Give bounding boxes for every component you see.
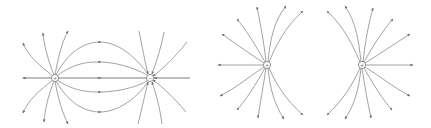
field-line-connect-upper-2: [56, 42, 100, 75]
positive-charge: +: [51, 74, 58, 81]
field-line-down-5: [269, 68, 303, 115]
field-line-up-1: [222, 34, 264, 63]
field-line-down-4: [268, 68, 284, 119]
positive-charge: +: [263, 61, 270, 68]
field-line-down-3: [362, 68, 371, 118]
field-line-negative-in-down-2: [152, 82, 162, 124]
field-line-up-3: [363, 8, 373, 62]
field-line-down-2: [237, 68, 265, 110]
field-line-connect-lower-1: [57, 80, 100, 92]
like-charge-left-panel: +: [218, 6, 303, 119]
field-line-canvas: + − +: [0, 0, 431, 128]
svg-text:+: +: [360, 62, 364, 68]
field-line-positive-up-2: [43, 33, 54, 75]
field-line-up-5: [327, 11, 360, 62]
field-line-up-4: [345, 6, 361, 62]
dipole-panel: + −: [22, 31, 190, 124]
svg-text:−: −: [148, 75, 152, 81]
field-line-negative-in-up-3: [153, 42, 187, 76]
field-line-down-3: [258, 68, 266, 118]
field-line-connect-lower-2b: [100, 82, 148, 112]
field-line-connect-lower-2: [56, 81, 100, 112]
field-line-positive-down-3: [55, 81, 68, 124]
field-line-negative-in-up-2: [152, 32, 164, 74]
field-line-down-5: [327, 68, 360, 115]
field-line-connect-lower-1b: [100, 81, 147, 92]
negative-charge: −: [146, 74, 153, 81]
field-line-connect-upper-2b: [100, 42, 148, 74]
field-line-positive-up-3: [55, 31, 68, 75]
field-line-down-4: [345, 68, 361, 119]
like-charge-right-panel: +: [327, 6, 413, 119]
field-line-connect-upper-1: [57, 62, 100, 76]
field-line-figure: + − +: [0, 0, 431, 128]
field-line-negative-in-down-3: [153, 80, 186, 112]
svg-text:+: +: [53, 75, 57, 81]
field-line-up-3: [257, 7, 266, 62]
field-line-positive-down-2: [44, 81, 54, 122]
svg-text:+: +: [265, 62, 269, 68]
field-line-up-5: [269, 11, 303, 62]
positive-charge: +: [358, 61, 365, 68]
